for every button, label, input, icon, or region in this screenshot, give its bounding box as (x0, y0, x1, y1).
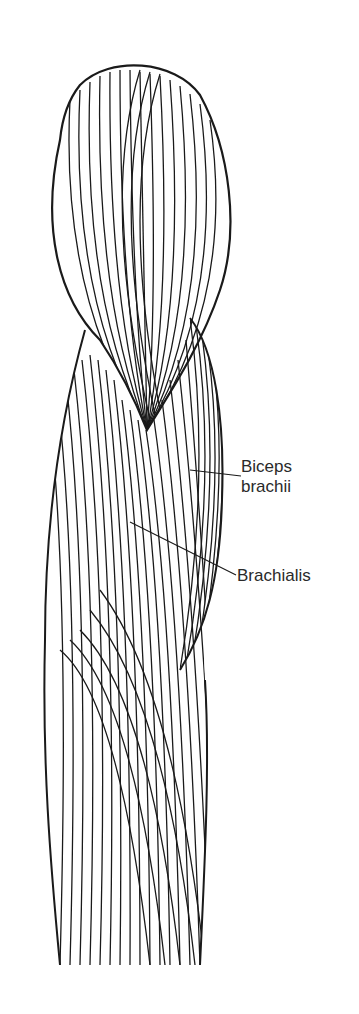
label-biceps-brachii: Biceps brachii (241, 457, 292, 497)
label-line: Brachialis (237, 566, 311, 586)
muscle-illustration (0, 0, 359, 1014)
label-line: Biceps (241, 457, 292, 477)
label-line: brachii (241, 477, 292, 497)
biceps-fibers (69, 70, 216, 430)
label-brachialis: Brachialis (237, 566, 311, 586)
right-muscle-fibers (180, 318, 223, 670)
